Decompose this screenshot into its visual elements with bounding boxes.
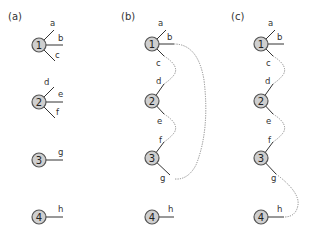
stub-label: h — [168, 204, 173, 214]
stub-label: e — [58, 89, 63, 99]
svg-text:3: 3 — [149, 153, 155, 164]
node-2: 2 — [254, 94, 268, 108]
node-3: 3 — [145, 151, 159, 165]
stub-matching-diagram: (a) a b c 1 d e f 2 g 3 h — [0, 0, 313, 234]
stub-label: d — [156, 76, 161, 86]
node-2: 2 — [145, 94, 159, 108]
node-3: 3 — [254, 151, 268, 165]
stub-label: a — [50, 18, 55, 28]
stub-label: h — [58, 204, 63, 214]
stub-label: g — [160, 173, 165, 183]
stub-label: b — [58, 33, 63, 43]
stub-label: e — [157, 116, 162, 126]
node-3: 3 — [32, 153, 46, 167]
connection-e-f — [273, 114, 285, 142]
stub-label: b — [277, 32, 282, 42]
svg-text:4: 4 — [36, 212, 42, 223]
stub-label: a — [158, 18, 163, 28]
stub-label: b — [167, 32, 172, 42]
connection-b-g — [174, 44, 206, 179]
stub-label: g — [271, 173, 276, 183]
svg-text:4: 4 — [258, 212, 264, 223]
node-1: 1 — [254, 37, 268, 51]
svg-text:3: 3 — [258, 153, 264, 164]
svg-text:4: 4 — [149, 212, 155, 223]
node-2: 2 — [32, 95, 46, 109]
stub-label: c — [266, 58, 271, 68]
node-4: 4 — [254, 210, 268, 224]
svg-text:2: 2 — [36, 97, 42, 108]
connection-c-d — [164, 56, 176, 84]
svg-text:2: 2 — [149, 96, 155, 107]
node-4: 4 — [32, 210, 46, 224]
stub-label: a — [268, 18, 273, 28]
panel-label-c: (c) — [231, 11, 244, 22]
svg-text:1: 1 — [36, 40, 42, 51]
stub-label: h — [277, 204, 282, 214]
panel-c: (c) a b c 1 d e 2 f g 3 — [231, 11, 298, 224]
connection-c-d — [273, 56, 285, 84]
svg-text:3: 3 — [36, 155, 42, 166]
panel-b: (b) a b c 1 d e 2 f g 3 — [121, 11, 206, 224]
stub-label: c — [55, 50, 60, 60]
panel-a: (a) a b c 1 d e f 2 g 3 h — [8, 11, 63, 224]
stub-label: c — [156, 58, 161, 68]
stub-label: e — [266, 116, 271, 126]
stub-label: d — [44, 77, 49, 87]
node-1: 1 — [32, 38, 46, 52]
stub-label: f — [56, 107, 60, 117]
stub-label: d — [265, 76, 270, 86]
svg-text:1: 1 — [149, 39, 155, 50]
svg-text:2: 2 — [258, 96, 264, 107]
node-1: 1 — [145, 37, 159, 51]
panel-label-b: (b) — [121, 11, 135, 22]
connection-e-f — [164, 114, 176, 142]
svg-text:1: 1 — [258, 39, 264, 50]
panel-label-a: (a) — [8, 11, 22, 22]
stub-label: g — [58, 147, 63, 157]
node-4: 4 — [145, 210, 159, 224]
